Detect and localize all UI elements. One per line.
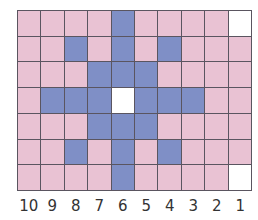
grid-cell [158, 114, 180, 139]
grid-cell [135, 88, 157, 113]
grid-cell [88, 11, 110, 36]
column-label: 9 [41, 196, 65, 216]
grid-cell [158, 165, 180, 190]
column-label: 7 [88, 196, 112, 216]
column-label: 4 [158, 196, 182, 216]
grid-cell [135, 114, 157, 139]
grid-cell [18, 165, 40, 190]
grid-cell [229, 114, 251, 139]
grid-cell [229, 165, 251, 190]
grid-cell [65, 62, 87, 87]
column-number-labels: 10987654321 [17, 196, 252, 216]
grid-cell [18, 140, 40, 165]
grid-cell [182, 37, 204, 62]
grid-cell [205, 165, 227, 190]
grid-cell [112, 62, 134, 87]
column-label: 2 [205, 196, 229, 216]
column-label: 8 [64, 196, 88, 216]
column-label: 6 [111, 196, 135, 216]
grid-cell [158, 88, 180, 113]
grid-cell [112, 37, 134, 62]
grid-cell [112, 11, 134, 36]
grid-cell [112, 114, 134, 139]
grid-cell [135, 140, 157, 165]
grid-cell [182, 140, 204, 165]
column-label: 10 [17, 196, 41, 216]
grid-cell [88, 114, 110, 139]
column-label: 1 [229, 196, 253, 216]
grid-cell [41, 62, 63, 87]
grid-cell [182, 114, 204, 139]
grid-cell [88, 165, 110, 190]
grid-cell [205, 114, 227, 139]
column-label: 3 [182, 196, 206, 216]
grid-cell [112, 140, 134, 165]
grid-cell [18, 37, 40, 62]
grid-cell [229, 62, 251, 87]
grid-cell [205, 11, 227, 36]
grid-cell [205, 88, 227, 113]
grid-cell [18, 62, 40, 87]
grid-cell [88, 37, 110, 62]
grid-cell [41, 114, 63, 139]
grid-cell [135, 37, 157, 62]
grid-cell [182, 11, 204, 36]
grid-cell [65, 140, 87, 165]
grid-cell [65, 165, 87, 190]
grid-cell [65, 88, 87, 113]
grid-cell [18, 114, 40, 139]
grid-cell [182, 62, 204, 87]
grid-cell [158, 140, 180, 165]
grid-cell [88, 140, 110, 165]
grid-cell [65, 37, 87, 62]
grid-cell [158, 11, 180, 36]
grid-cell [88, 88, 110, 113]
grid-cell [135, 62, 157, 87]
grid-cell [182, 165, 204, 190]
grid-cell [229, 88, 251, 113]
grid-cell [158, 62, 180, 87]
grid-cell [41, 37, 63, 62]
grid-cell [182, 88, 204, 113]
grid-cell [205, 62, 227, 87]
grid-cell [41, 165, 63, 190]
grid-cell [41, 88, 63, 113]
grid-cell [229, 11, 251, 36]
grid-cell [18, 88, 40, 113]
grid-cell [205, 37, 227, 62]
pattern-grid [17, 10, 252, 191]
grid-cell [65, 11, 87, 36]
column-label: 5 [135, 196, 159, 216]
grid-cell [112, 165, 134, 190]
grid-cell [135, 11, 157, 36]
grid-cell [229, 140, 251, 165]
grid-cell [41, 140, 63, 165]
grid-cell [135, 165, 157, 190]
grid-cell [88, 62, 110, 87]
grid-cell [229, 37, 251, 62]
grid-cell [158, 37, 180, 62]
grid-cell [41, 11, 63, 36]
grid-cell [18, 11, 40, 36]
grid-cell [112, 88, 134, 113]
grid-cell [65, 114, 87, 139]
grid-cell [205, 140, 227, 165]
